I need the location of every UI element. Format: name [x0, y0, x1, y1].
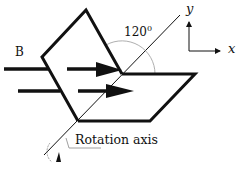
field-arrowhead-lower: [106, 84, 134, 98]
x-axis-label: x: [228, 42, 235, 55]
y-axis-label: y: [186, 2, 193, 15]
degree-superscript: 0: [147, 24, 152, 33]
rotation-arrowhead: [56, 152, 61, 162]
angle-label: 1200: [124, 25, 152, 38]
field-label-b: B: [15, 46, 24, 58]
horizontal-plane: [78, 74, 195, 121]
diagram-canvas: B 1200 y x Rotation axis: [0, 0, 241, 170]
rotation-direction-arc: [47, 143, 52, 162]
tilted-plane: [42, 10, 122, 121]
angle-value: 120: [124, 25, 147, 39]
rotation-axis-caption: Rotation axis: [75, 134, 158, 147]
